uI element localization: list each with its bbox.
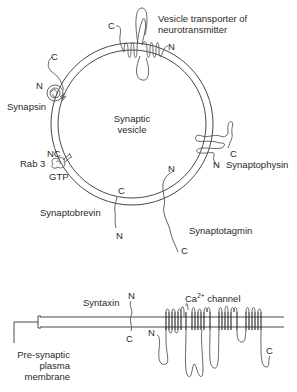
rab3-coil: [56, 161, 60, 164]
membrane-label-line1: Pre-synaptic: [17, 349, 70, 360]
vesicle-label-line2: vesicle: [117, 124, 146, 135]
synaptobrevin-n-terminal: N: [116, 230, 123, 241]
membrane-label-line3: membrane: [25, 371, 70, 382]
vesicle-label-line1: Synaptic: [114, 113, 151, 124]
synaptotagmin: N C Synaptotagmin: [163, 163, 253, 256]
domain-3-pore-loop: [234, 308, 237, 313]
synaptophysin-n-terminal: N: [213, 159, 220, 170]
synaptobrevin: C N Synaptobrevin: [40, 185, 125, 241]
channel-n-terminal: N: [148, 327, 155, 338]
channel-loop-1-2: [186, 330, 203, 377]
syntaxin-chain: [130, 301, 132, 331]
domain-1-bottom-loops: [169, 330, 178, 333]
transporter-lumen-loop: [137, 56, 149, 80]
domain-1-pore-loop: [181, 303, 188, 317]
transporter-label-line2: neurotransmitter: [158, 24, 227, 35]
channel-label-prefix: Ca: [185, 293, 198, 304]
channel-loop-3-4: [237, 330, 246, 342]
channel-c-terminal: C: [266, 345, 273, 356]
synaptotagmin-label: Synaptotagmin: [189, 225, 252, 236]
synaptobrevin-label: Synaptobrevin: [40, 207, 101, 218]
synapsin-n-terminal: N: [36, 80, 43, 91]
channel-label-suffix: channel: [205, 293, 241, 304]
synaptobrevin-chain: [115, 197, 117, 228]
transporter-c-tail: [116, 26, 124, 52]
synaptic-proteins-diagram: Synaptic vesicle C N Vesicle transporter…: [0, 0, 297, 392]
synapsin-c-terminal: C: [51, 51, 58, 62]
syntaxin-n-terminal: N: [128, 290, 135, 301]
synaptobrevin-c-terminal: C: [118, 185, 125, 196]
channel-n-tail: [157, 327, 168, 364]
synapsin-anchor: [60, 94, 66, 101]
transporter-n-terminal: N: [168, 41, 175, 52]
domain-4-top-loops: [246, 308, 261, 313]
synaptic-vesicle: Synaptic vesicle: [51, 43, 213, 205]
synaptophysin-label: Synaptophysin: [226, 159, 288, 170]
calcium-channel: N C Ca2+ channel: [148, 292, 273, 377]
synaptophysin: C N Synaptophysin: [195, 121, 288, 170]
domain-3-top-loops: [219, 306, 234, 312]
membrane-end-bracket: [38, 316, 41, 328]
domain-2-pore-loop: [207, 308, 210, 313]
channel-label: Ca2+ channel: [185, 292, 241, 304]
transporter-c-terminal: C: [108, 20, 115, 31]
rab3-terminals: NC: [47, 148, 61, 159]
rab3-gtp-label: GTP: [49, 171, 69, 182]
synapsin-coil-detail: [51, 90, 57, 97]
synapsin: C N Synapsin: [7, 51, 66, 112]
synaptotagmin-n-terminal: N: [168, 163, 175, 174]
vesicle-transporter: C N Vesicle transporter of neurotransmit…: [108, 8, 248, 80]
syntaxin-label: Syntaxin: [83, 297, 119, 308]
channel-domain-1: [166, 303, 188, 333]
rab3-label: Rab 3: [20, 158, 45, 169]
channel-loop-2-3: [210, 330, 219, 368]
transporter-label-line1: Vesicle transporter of: [158, 13, 248, 24]
transporter-helices: [124, 18, 162, 57]
synaptophysin-c-terminal: C: [230, 148, 237, 159]
channel-domain-3: [219, 306, 237, 330]
synapsin-label: Synapsin: [7, 101, 46, 112]
domain-1-top-loops: [166, 309, 181, 312]
syntaxin-c-terminal: C: [126, 333, 133, 344]
membrane-leader-line: [14, 322, 38, 343]
plasma-membrane: Pre-synaptic plasma membrane: [14, 316, 284, 382]
synaptotagmin-c-terminal: C: [181, 245, 188, 256]
membrane-label-line2: plasma: [39, 360, 70, 371]
domain-2-top-loops: [192, 308, 207, 313]
